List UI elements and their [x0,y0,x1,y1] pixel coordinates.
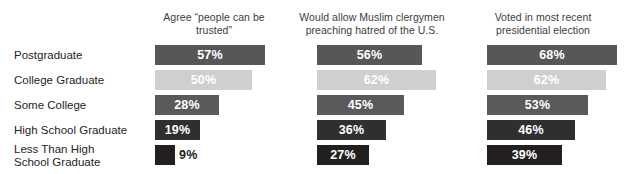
bar-value: 9% [179,148,197,162]
panel-header-trust: Agree “people can be trusted” [150,11,278,36]
bar-clergymen-postgraduate: 56% [317,45,422,65]
bar-value: 28% [174,98,200,112]
panel-header-clergymen: Would allow Muslim clergymen preaching h… [296,11,448,36]
grouped-bar-chart: Agree “people can be trusted” Would allo… [0,0,627,174]
bar-voted-less-than-high-school: 39% [487,145,562,165]
bar-value: 68% [539,48,565,62]
bar-trust-high-school-graduate: 19% [155,120,200,140]
bar-value: 19% [165,123,191,137]
bar-clergymen-less-than-high-school: 27% [317,145,369,165]
row-label-some-college: Some College [14,99,86,112]
bar-value: 45% [348,98,374,112]
row-label-less-than-high-school: Less Than High School Graduate [14,143,100,168]
bar-voted-high-school-graduate: 46% [487,120,575,140]
bar-clergymen-some-college: 45% [317,95,404,115]
bar-voted-postgraduate: 68% [487,45,617,65]
bar-clergymen-college-graduate: 62% [317,70,436,90]
bar-value: 56% [357,48,383,62]
bar-value: 36% [339,123,365,137]
bar-trust-postgraduate: 57% [155,45,265,65]
bar-value: 57% [197,48,223,62]
bar-value: 62% [364,73,390,87]
row-label-high-school-graduate: High School Graduate [14,124,127,137]
bar-trust-college-graduate: 50% [155,70,252,90]
bar-voted-some-college: 53% [487,95,588,115]
bar-value: 50% [191,73,217,87]
bar-value: 62% [534,73,560,87]
bar-value: 53% [525,98,551,112]
bar-value: 46% [518,123,544,137]
bar-trust-some-college: 28% [155,95,219,115]
bar-clergymen-high-school-graduate: 36% [317,120,386,140]
bar-value: 39% [512,148,538,162]
bar-value: 27% [330,148,356,162]
bar-trust-less-than-high-school: 9% [155,145,175,165]
row-label-college-graduate: College Graduate [14,74,104,87]
panel-header-voted: Voted in most recent presidential electi… [470,11,616,36]
row-label-postgraduate: Postgraduate [14,49,82,62]
bar-voted-college-graduate: 62% [487,70,606,90]
